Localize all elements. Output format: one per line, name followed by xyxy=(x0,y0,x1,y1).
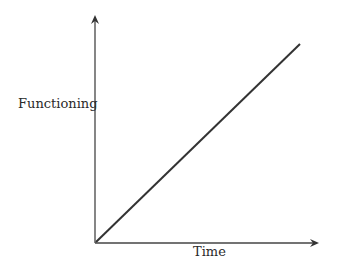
linear-functioning-diagram: Functioning Time xyxy=(0,0,340,269)
functioning-line xyxy=(96,44,300,242)
x-axis-label: Time xyxy=(193,244,226,259)
y-axis-label: Functioning xyxy=(18,96,97,111)
diagram-canvas xyxy=(0,0,340,269)
